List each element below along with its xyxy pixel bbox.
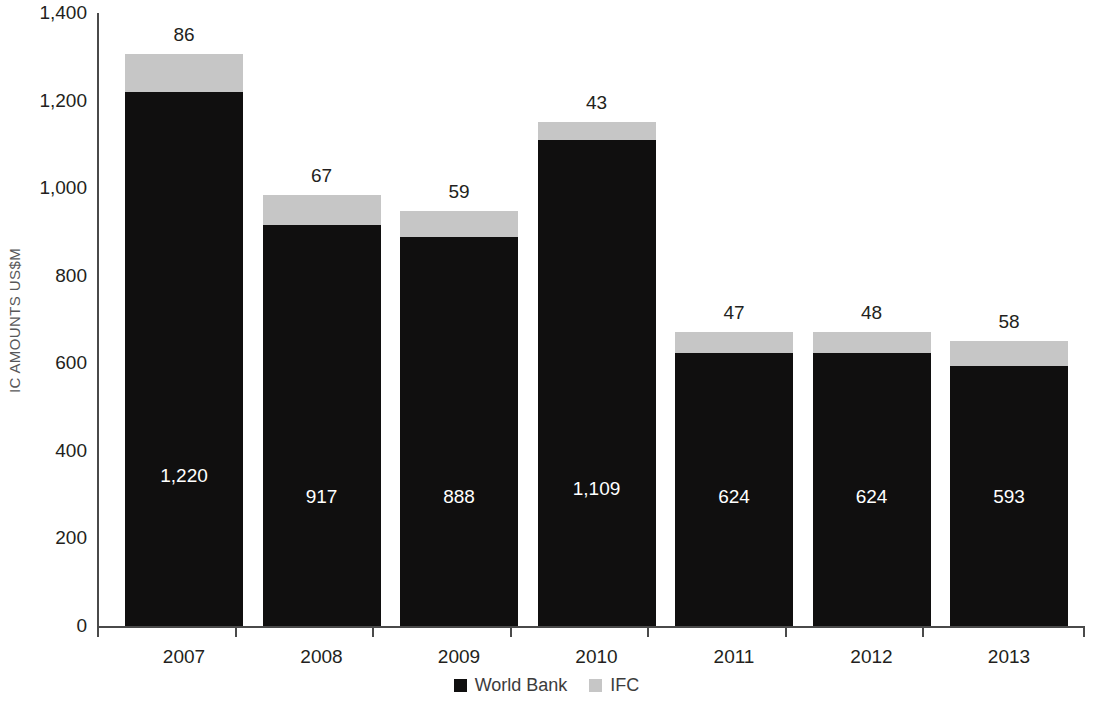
y-tick-label: 1,000 <box>9 177 87 199</box>
legend-swatch-icon <box>589 679 602 692</box>
x-tick-label: 2008 <box>263 646 381 668</box>
bar-segment-ifc[interactable] <box>813 332 931 353</box>
x-tick-label: 2009 <box>400 646 518 668</box>
bar-value-label-ifc: 48 <box>813 302 931 324</box>
bar-group[interactable]: 62447 <box>675 13 793 626</box>
bar-value-label-ifc: 59 <box>400 181 518 203</box>
x-tick-label: 2007 <box>125 646 243 668</box>
legend-swatch-icon <box>454 679 467 692</box>
x-axis-tick <box>510 626 512 637</box>
bar-value-label-ifc: 43 <box>538 92 656 114</box>
bar-segment-world-bank[interactable] <box>400 237 518 626</box>
bar-value-label-ifc: 67 <box>263 165 381 187</box>
x-axis-tick <box>97 626 99 637</box>
bar-value-label-world-bank: 1,109 <box>538 478 656 500</box>
x-axis-tick <box>647 626 649 637</box>
x-tick-label: 2012 <box>813 646 931 668</box>
y-tick-label: 400 <box>9 440 87 462</box>
bar-value-label-world-bank: 1,220 <box>125 465 243 487</box>
chart-figure: IC AMOUNTS US$M 02004006008001,0001,2001… <box>0 0 1093 706</box>
x-tick-label: 2010 <box>538 646 656 668</box>
x-axis-tick <box>922 626 924 637</box>
bar-value-label-world-bank: 624 <box>675 486 793 508</box>
bar-series-container: 1,2208691767888591,10943624476244859358 <box>97 13 1085 626</box>
bar-segment-ifc[interactable] <box>950 341 1068 366</box>
x-tick-label: 2011 <box>675 646 793 668</box>
bar-value-label-world-bank: 624 <box>813 486 931 508</box>
x-axis-tick <box>372 626 374 637</box>
bar-value-label-ifc: 58 <box>950 311 1068 333</box>
bar-segment-ifc[interactable] <box>400 211 518 237</box>
y-tick-label: 600 <box>9 352 87 374</box>
bar-segment-world-bank[interactable] <box>125 92 243 626</box>
bar-segment-ifc[interactable] <box>538 122 656 141</box>
bar-group[interactable]: 91767 <box>263 13 381 626</box>
bar-group[interactable]: 88859 <box>400 13 518 626</box>
legend-item[interactable]: World Bank <box>454 675 568 696</box>
x-axis-tick <box>1083 626 1085 637</box>
x-tick-label: 2013 <box>950 646 1068 668</box>
bar-segment-ifc[interactable] <box>675 332 793 353</box>
bar-segment-ifc[interactable] <box>263 195 381 224</box>
legend-label: World Bank <box>475 675 568 696</box>
legend-item[interactable]: IFC <box>589 675 639 696</box>
bar-group[interactable]: 59358 <box>950 13 1068 626</box>
y-tick-label: 1,200 <box>9 90 87 112</box>
x-axis-line <box>97 626 1085 628</box>
bar-value-label-world-bank: 593 <box>950 486 1068 508</box>
plot-area: 02004006008001,0001,2001,400 1,220869176… <box>97 13 1085 628</box>
y-tick-label: 1,400 <box>9 2 87 24</box>
bar-group[interactable]: 1,22086 <box>125 13 243 626</box>
bar-value-label-ifc: 86 <box>125 24 243 46</box>
legend-label: IFC <box>610 675 639 696</box>
x-axis-tick <box>785 626 787 637</box>
bar-group[interactable]: 62448 <box>813 13 931 626</box>
bar-segment-world-bank[interactable] <box>538 140 656 626</box>
y-tick-label: 800 <box>9 265 87 287</box>
y-tick-label: 200 <box>9 527 87 549</box>
x-axis-tick <box>235 626 237 637</box>
bar-group[interactable]: 1,10943 <box>538 13 656 626</box>
bar-segment-world-bank[interactable] <box>263 225 381 627</box>
bar-segment-ifc[interactable] <box>125 54 243 92</box>
bar-value-label-ifc: 47 <box>675 302 793 324</box>
chart-legend: World BankIFC <box>0 675 1093 696</box>
bar-value-label-world-bank: 888 <box>400 486 518 508</box>
bar-value-label-world-bank: 917 <box>263 486 381 508</box>
y-tick-label: 0 <box>9 615 87 637</box>
